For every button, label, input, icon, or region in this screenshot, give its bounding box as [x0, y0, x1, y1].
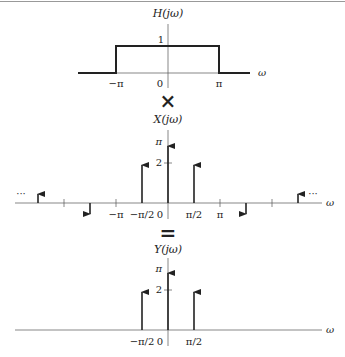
y-y-tick-2: 2 [156, 284, 162, 295]
x-tick-zero: 0 [157, 209, 163, 220]
y-x-axis-label: ω [326, 324, 334, 335]
x-y-tick-2: 2 [156, 157, 162, 168]
y-plot: Y(jω) π 2 −π/2 0 π/2 ω [15, 243, 334, 347]
y-y-tick-pi: π [154, 263, 162, 274]
frequency-domain-diagram: H(jω) 1 −π 0 π ω × X(jω) [0, 0, 345, 357]
x-tick-neg-pi-2: −π/2 [130, 209, 155, 220]
x-tick-pi: π [217, 209, 224, 220]
h-x-tick-pi: π [216, 78, 223, 89]
x-x-axis-label: ω [326, 197, 334, 208]
y-tick-neg-pi-2: −π/2 [130, 336, 155, 347]
x-tick-pi-2: π/2 [186, 209, 202, 220]
x-ellipsis-left: ··· [16, 188, 26, 199]
x-y-tick-pi: π [154, 136, 162, 147]
h-x-axis-label: ω [258, 67, 266, 78]
y-tick-zero: 0 [157, 336, 163, 347]
h-plot: H(jω) 1 −π 0 π ω [78, 7, 266, 89]
h-x-tick-neg-pi: −π [109, 78, 124, 89]
h-x-tick-zero: 0 [157, 78, 163, 89]
x-plot: X(jω) π 2 −π −π/2 0 π/2 π ··· ··· ω [15, 113, 334, 220]
y-tick-pi-2: π/2 [186, 336, 202, 347]
multiply-operator: × [160, 89, 177, 113]
x-tick-neg-pi: −π [109, 209, 124, 220]
x-plot-title: X(jω) [153, 113, 183, 126]
h-y-tick-1: 1 [158, 34, 164, 45]
equals-operator: = [160, 221, 177, 245]
y-plot-title: Y(jω) [154, 243, 182, 256]
x-ellipsis-right: ··· [308, 188, 318, 199]
h-lowpass-curve [78, 46, 250, 73]
h-plot-title: H(jω) [152, 7, 184, 20]
y-impulses [142, 273, 194, 330]
